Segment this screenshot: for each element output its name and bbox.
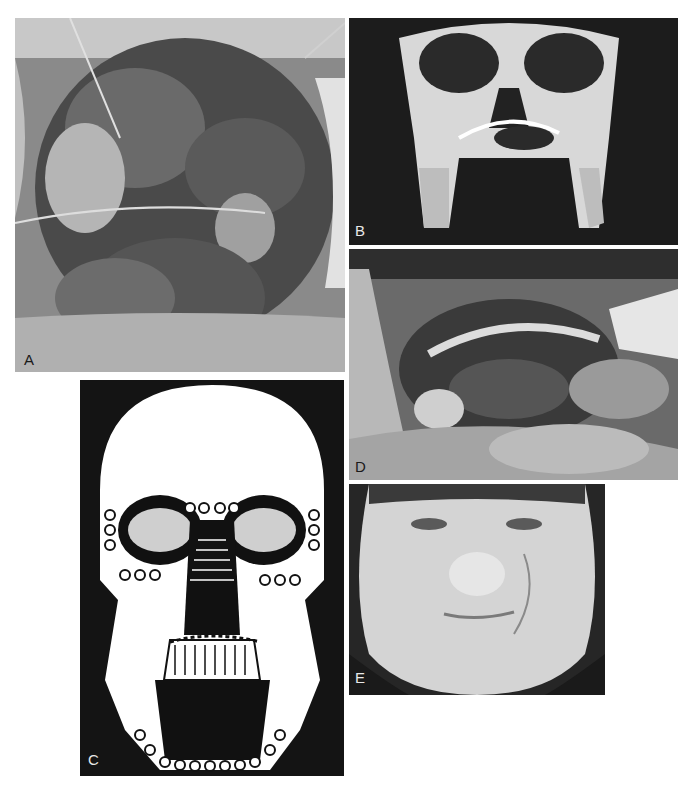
panel-label-b: B <box>355 223 365 238</box>
panel-label-a: A <box>24 352 34 367</box>
panel-label-e: E <box>355 670 365 685</box>
panel-a-intraoperative-photo: A <box>15 18 345 372</box>
panel-label-c: C <box>88 752 99 767</box>
ct-skull-image <box>349 18 678 245</box>
intraoperative-wound-image <box>15 18 345 372</box>
skull-fixation-diagram <box>80 380 344 776</box>
panel-label-d: D <box>355 459 366 474</box>
postoperative-face-image <box>349 484 605 695</box>
panel-c-skull-fixation-diagram: C <box>80 380 344 776</box>
panel-e-postoperative-photo: E <box>349 484 605 695</box>
intraoperative-oral-image <box>349 249 678 480</box>
panel-b-ct-reconstruction: B <box>349 18 678 245</box>
panel-d-intraoperative-oral: D <box>349 249 678 480</box>
